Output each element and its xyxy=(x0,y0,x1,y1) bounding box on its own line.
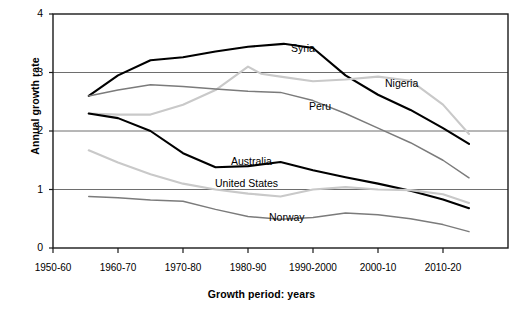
y-axis-tick-label: 4 xyxy=(25,7,43,19)
x-axis-tick-label: 2010-20 xyxy=(398,262,488,273)
series-label-australia: Australia xyxy=(231,155,272,167)
series-label-peru: Peru xyxy=(309,100,331,112)
series-label-syria: Syria xyxy=(291,42,315,54)
growth-rate-line-chart: 01234 1950-601960-701970-801980-901990-2… xyxy=(0,0,523,311)
series-label-united-states: United States xyxy=(215,177,278,189)
series-lines xyxy=(89,44,469,232)
y-axis-tick-label: 0 xyxy=(25,241,43,253)
series-label-nigeria: Nigeria xyxy=(385,77,418,89)
x-axis-title: Growth period: years xyxy=(0,288,523,300)
series-line-united-states xyxy=(89,150,469,203)
series-line-australia xyxy=(89,113,469,208)
y-axis-title: Annual growth rate xyxy=(29,26,41,186)
series-label-norway: Norway xyxy=(269,211,305,223)
